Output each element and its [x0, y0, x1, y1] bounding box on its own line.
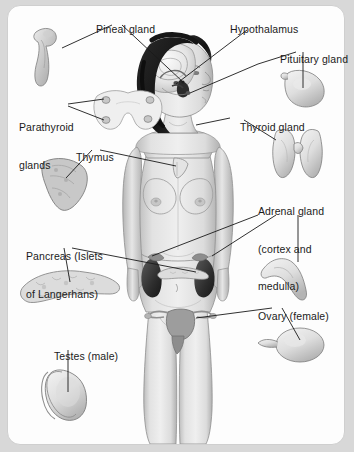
pineal-inset — [34, 28, 57, 86]
label-ovary-line-1: Ovary (female) — [258, 310, 329, 322]
label-thymus: Thymus — [64, 138, 114, 176]
endocrine-system-figure: Pineal gland Hypothalamus Pituitary glan… — [0, 0, 354, 452]
label-pituitary-gland: Pituitary gland — [268, 40, 348, 78]
label-pancreas-line-2: of Langerhans) — [26, 288, 103, 301]
label-adrenal-line-2: (cortex and — [258, 243, 324, 256]
label-parathyroid-line-1: Parathyroid — [19, 121, 74, 134]
testes-inset — [42, 370, 87, 420]
parathyroid-inset — [94, 91, 162, 130]
label-thymus-line-1: Thymus — [76, 151, 114, 163]
label-hypothalamus-line-1: Hypothalamus — [230, 23, 298, 35]
label-pancreas: Pancreas (Islets of Langerhans) — [26, 225, 103, 325]
label-pineal-gland: Pineal gland — [84, 10, 155, 48]
label-adrenal-line-3: medulla) — [258, 280, 324, 293]
label-pancreas-line-1: Pancreas (Islets — [26, 250, 103, 263]
label-thyroid-gland: Thyroid gland — [228, 108, 305, 146]
label-adrenal-line-1: Adrenal gland — [258, 205, 324, 218]
label-testes-male: Testes (male) — [42, 337, 118, 375]
label-testes-line-1: Testes (male) — [54, 350, 118, 362]
label-ovary-female: Ovary (female) — [246, 297, 329, 335]
label-pineal-line-1: Pineal gland — [96, 23, 155, 35]
label-pituitary-line-1: Pituitary gland — [280, 53, 348, 65]
label-thyroid-line-1: Thyroid gland — [240, 121, 305, 133]
